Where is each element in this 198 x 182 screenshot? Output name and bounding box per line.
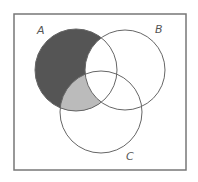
venn-diagram: A B C (0, 0, 198, 182)
label-a: A (36, 24, 45, 37)
venn-svg: A B C (0, 0, 198, 182)
label-b: B (155, 23, 163, 36)
label-c: C (126, 150, 134, 163)
